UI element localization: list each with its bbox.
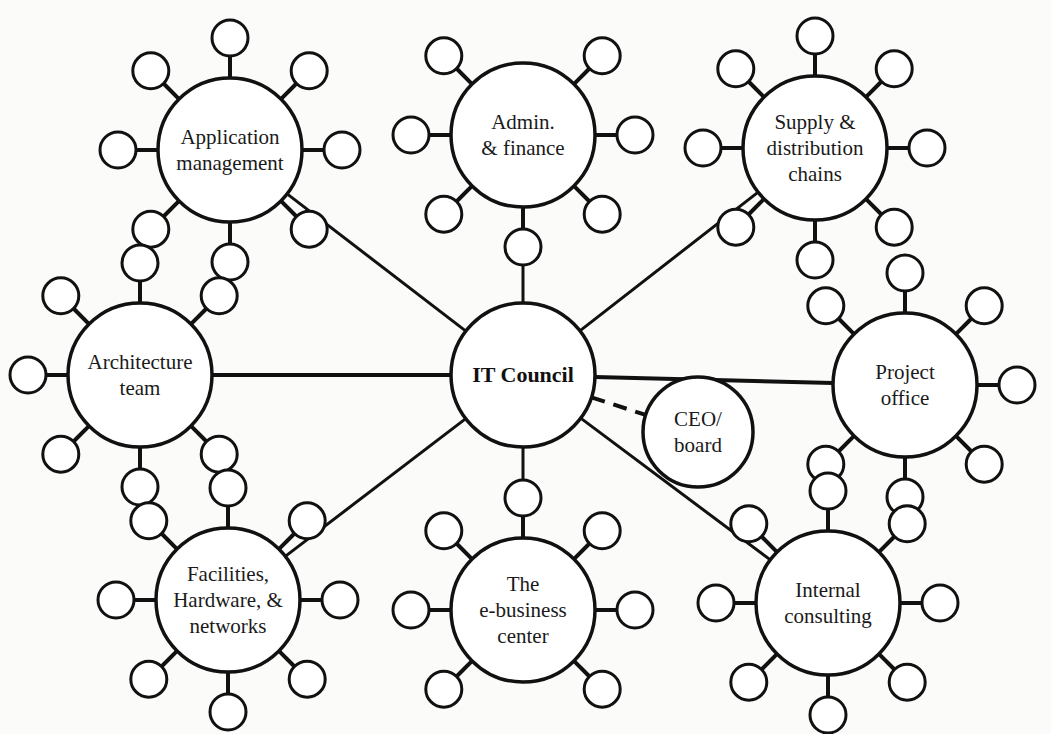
satellite-stub <box>279 651 295 667</box>
architecture-team-circle <box>68 303 212 447</box>
satellite-circle <box>876 51 912 87</box>
e-business-center-label-line: The <box>507 572 540 596</box>
satellite-stub <box>164 201 180 217</box>
satellite-circle <box>289 661 325 697</box>
satellite-circle <box>131 503 167 539</box>
connector-ceo-board-dashed <box>591 397 645 415</box>
satellite-stub <box>457 69 473 85</box>
application-management-label-line: management <box>176 151 283 175</box>
satellite-stub <box>191 426 207 442</box>
satellite-circle <box>98 582 134 618</box>
satellite-circle <box>10 357 46 393</box>
satellite-circle <box>212 20 248 56</box>
satellite-circle <box>505 229 541 265</box>
internal-consulting-circle <box>756 531 900 675</box>
satellite-stub <box>457 186 473 202</box>
admin-finance-label-line: Admin. <box>491 110 555 134</box>
satellite-stub <box>281 201 297 217</box>
satellite-stub <box>956 436 972 452</box>
satellite-stub <box>162 534 178 550</box>
it-council-node: IT Council <box>451 303 595 447</box>
facilities-hardware-networks-node: Facilities,Hardware, &networks <box>156 528 300 672</box>
it-council-diagram: ApplicationmanagementAdmin.& financeSupp… <box>0 0 1051 734</box>
satellite-circle <box>201 436 237 472</box>
satellite-circle <box>291 211 327 247</box>
ceo-board-node: CEO/board <box>643 377 753 487</box>
it-council-label-line: IT Council <box>472 362 574 387</box>
internal-consulting-node: Internalconsulting <box>756 531 900 675</box>
satellite-stub <box>749 82 765 98</box>
satellite-stub <box>762 537 778 553</box>
satellite-stub <box>574 69 590 85</box>
application-management-circle <box>158 78 302 222</box>
satellite-stub <box>164 84 180 100</box>
satellite-stub <box>162 651 178 667</box>
satellite-circle <box>617 592 653 628</box>
satellite-circle <box>324 132 360 168</box>
satellite-stub <box>191 309 207 325</box>
satellite-circle <box>889 506 925 542</box>
architecture-team-node: Architectureteam <box>68 303 212 447</box>
satellite-circle <box>201 278 237 314</box>
satellite-circle <box>131 661 167 697</box>
internal-consulting-label-line: consulting <box>784 604 872 628</box>
ceo-board-label-line: board <box>674 433 722 457</box>
supply-distribution-chains-label-line: Supply & <box>774 110 855 134</box>
admin-finance-label-line: & finance <box>481 136 564 160</box>
satellite-circle <box>122 469 158 505</box>
satellite-stub <box>574 661 590 677</box>
application-management-label-line: Application <box>180 125 280 149</box>
satellite-circle <box>698 585 734 621</box>
facilities-hardware-networks-label-line: Facilities, <box>187 562 269 586</box>
satellite-circle <box>999 367 1035 403</box>
satellite-stub <box>281 84 297 100</box>
satellite-circle <box>922 585 958 621</box>
satellite-circle <box>133 211 169 247</box>
satellite-circle <box>291 53 327 89</box>
satellite-circle <box>584 513 620 549</box>
satellite-stub <box>457 661 473 677</box>
project-office-label-line: Project <box>875 360 935 384</box>
satellite-circle <box>808 288 844 324</box>
satellite-circle <box>584 38 620 74</box>
satellite-circle <box>100 132 136 168</box>
satellite-circle <box>133 53 169 89</box>
admin-finance-node: Admin.& finance <box>451 63 595 207</box>
e-business-center-label-line: center <box>497 624 548 648</box>
satellite-circle <box>810 697 846 733</box>
satellite-stub <box>866 82 882 98</box>
architecture-team-label-line: team <box>120 376 161 400</box>
satellite-stub <box>74 309 90 325</box>
project-office-circle <box>833 313 977 457</box>
satellite-stub <box>279 534 295 550</box>
e-business-center-node: Thee-businesscenter <box>451 538 595 682</box>
project-office-node: Projectoffice <box>833 313 977 457</box>
supply-distribution-chains-node: Supply &distributionchains <box>743 76 887 220</box>
satellite-circle <box>966 446 1002 482</box>
satellite-circle <box>426 196 462 232</box>
satellite-circle <box>731 664 767 700</box>
satellite-circle <box>810 473 846 509</box>
satellite-circle <box>889 664 925 700</box>
supply-distribution-chains-label-line: distribution <box>767 136 864 160</box>
satellite-circle <box>505 480 541 516</box>
satellite-circle <box>718 51 754 87</box>
satellite-circle <box>43 436 79 472</box>
ceo-board-label-line: CEO/ <box>674 407 722 431</box>
satellite-stub <box>574 186 590 202</box>
satellite-stub <box>866 199 882 215</box>
satellite-circle <box>43 278 79 314</box>
satellite-stub <box>839 319 855 335</box>
e-business-center-label-line: e-business <box>479 598 567 622</box>
satellite-circle <box>322 582 358 618</box>
satellite-circle <box>584 196 620 232</box>
satellite-stub <box>74 426 90 442</box>
satellite-stub <box>574 544 590 560</box>
project-office-label-line: office <box>881 386 930 410</box>
internal-consulting-label-line: Internal <box>795 578 860 602</box>
satellite-circle <box>685 130 721 166</box>
satellite-circle <box>426 513 462 549</box>
facilities-hardware-networks-label-line: networks <box>190 614 267 638</box>
satellite-stub <box>839 436 855 452</box>
satellite-stub <box>749 199 765 215</box>
